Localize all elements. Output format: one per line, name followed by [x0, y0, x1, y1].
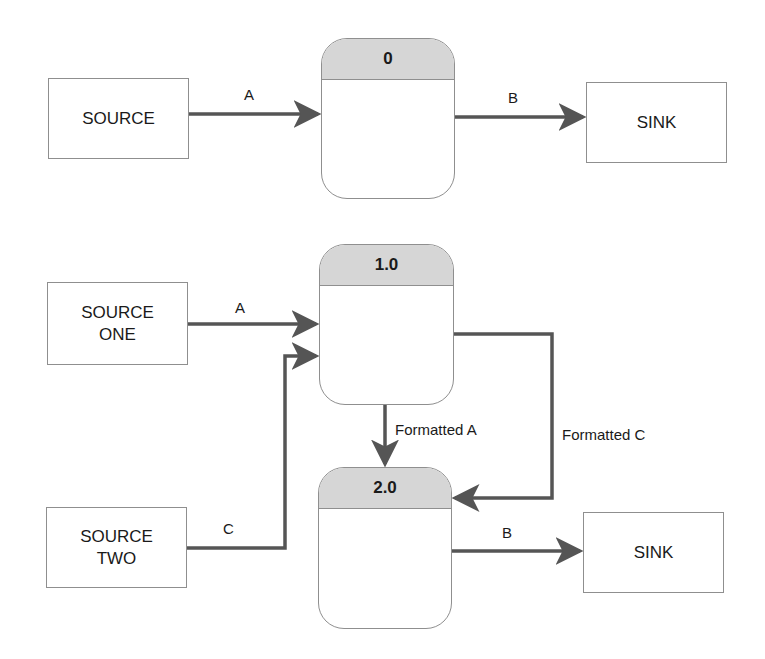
flow-label-a-bottom: A: [235, 299, 245, 316]
source-entity: SOURCE: [48, 78, 189, 159]
source-two-label: SOURCE TWO: [80, 526, 153, 570]
source-two-entity: SOURCE TWO: [46, 507, 187, 588]
process-0-id: 0: [322, 39, 454, 80]
process-2-0: 2.0: [318, 467, 452, 629]
flow-label-formatted-a: Formatted A: [395, 421, 477, 438]
sink-entity-top: SINK: [586, 82, 727, 163]
process-1-0: 1.0: [319, 244, 454, 405]
flow-label-b-top: B: [508, 89, 518, 106]
flow-arrow-formatted-c: [454, 334, 552, 498]
source-label: SOURCE: [82, 108, 155, 130]
sink-label-top: SINK: [637, 112, 677, 134]
sink-label-bottom: SINK: [634, 542, 674, 564]
sink-entity-bottom: SINK: [583, 512, 724, 593]
flow-label-a-top: A: [244, 86, 254, 103]
source-one-entity: SOURCE ONE: [47, 282, 188, 365]
process-2-0-id: 2.0: [319, 468, 451, 509]
flow-label-formatted-c: Formatted C: [562, 426, 645, 443]
flow-label-c: C: [223, 520, 234, 537]
flow-arrow-c: [187, 356, 316, 548]
source-one-label: SOURCE ONE: [81, 302, 154, 346]
process-1-0-id: 1.0: [320, 245, 453, 286]
flow-label-b-bottom: B: [502, 524, 512, 541]
process-0: 0: [321, 38, 455, 199]
